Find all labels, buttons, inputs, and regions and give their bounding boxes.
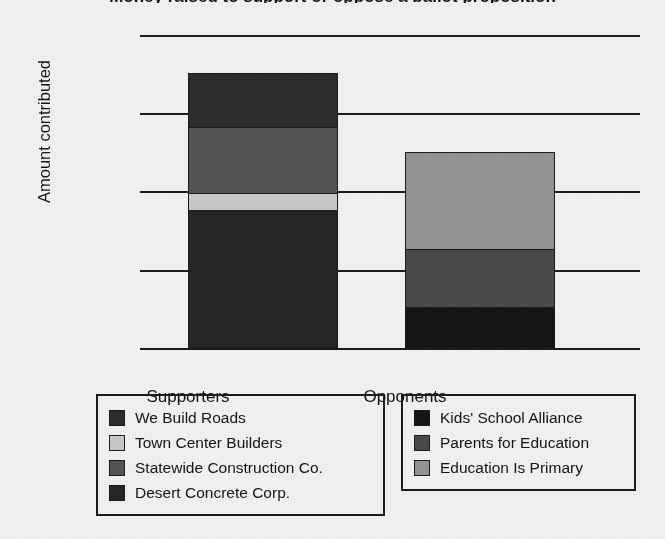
legend-item-label: Town Center Builders — [135, 435, 282, 451]
legend-swatch-icon — [109, 435, 125, 451]
bar-segment[interactable] — [406, 153, 554, 249]
bar-segment[interactable] — [189, 193, 337, 210]
legend-item-label: Kids' School Alliance — [440, 410, 583, 426]
legend-swatch-icon — [109, 485, 125, 501]
supporters-legend: We Build RoadsTown Center BuildersStatew… — [96, 394, 385, 516]
legend-item-label: Statewide Construction Co. — [135, 460, 323, 476]
legend-swatch-icon — [109, 410, 125, 426]
legend-swatch-icon — [414, 460, 430, 476]
bar-opponents[interactable] — [405, 152, 555, 348]
bar-segment[interactable] — [189, 74, 337, 127]
legend-item[interactable]: Kids' School Alliance — [414, 405, 621, 430]
legend-row: We Build RoadsTown Center BuildersStatew… — [96, 394, 636, 516]
y-axis-title: Amount contributed — [35, 2, 54, 262]
legend-item-label: We Build Roads — [135, 410, 246, 426]
bar-segment[interactable] — [406, 249, 554, 307]
legend-item-label: Education Is Primary — [440, 460, 583, 476]
stacked-bar-chart: Money raised to support or oppose a ball… — [0, 0, 665, 539]
bar-segment[interactable] — [406, 307, 554, 347]
chart-title: Money raised to support or oppose a ball… — [0, 0, 665, 3]
gridline — [140, 348, 640, 350]
legend-item-label: Parents for Education — [440, 435, 589, 451]
legend-item[interactable]: Town Center Builders — [109, 430, 370, 455]
legend-swatch-icon — [414, 435, 430, 451]
legend-swatch-icon — [109, 460, 125, 476]
legend-swatch-icon — [414, 410, 430, 426]
plot-area: $800,000$600,000$400,000$200,000$0Suppor… — [140, 30, 640, 353]
opponents-legend: Kids' School AllianceParents for Educati… — [401, 394, 636, 491]
bar-supporters[interactable] — [188, 73, 338, 348]
gridline — [140, 35, 640, 37]
legend-item[interactable]: Education Is Primary — [414, 455, 621, 480]
legend-item[interactable]: Desert Concrete Corp. — [109, 480, 370, 505]
legend-item[interactable]: Statewide Construction Co. — [109, 455, 370, 480]
legend-item-label: Desert Concrete Corp. — [135, 485, 290, 501]
legend-item[interactable]: We Build Roads — [109, 405, 370, 430]
bar-segment[interactable] — [189, 210, 337, 347]
bar-segment[interactable] — [189, 127, 337, 193]
legend-item[interactable]: Parents for Education — [414, 430, 621, 455]
